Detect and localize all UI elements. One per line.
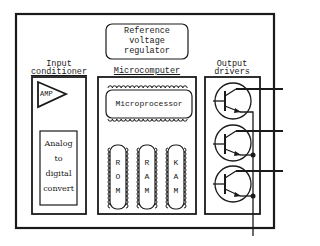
input-title-line2: conditioner bbox=[26, 68, 92, 76]
ram-letter: M bbox=[139, 184, 155, 198]
reference-line3: regulator bbox=[106, 46, 188, 56]
transistor-icons bbox=[213, 83, 283, 236]
ram-label: R A M bbox=[139, 156, 155, 198]
kam-letter: A bbox=[168, 170, 184, 184]
microcomputer-title: Microcomputer bbox=[98, 66, 196, 76]
rom-letter: O bbox=[110, 170, 126, 184]
rom-letter: M bbox=[110, 184, 126, 198]
kam-letter: M bbox=[168, 184, 184, 198]
reference-line2: voltage bbox=[106, 36, 188, 46]
adc-line4: convert bbox=[40, 181, 77, 196]
output-title-line2: drivers bbox=[203, 68, 261, 76]
input-conditioner-title: Input conditioner bbox=[26, 60, 92, 76]
reference-line1: Reference bbox=[106, 26, 188, 36]
ram-letter: R bbox=[139, 156, 155, 170]
reference-regulator-label: Reference voltage regulator bbox=[106, 26, 188, 56]
junction-dot bbox=[251, 194, 256, 199]
amp-label: AMP bbox=[38, 89, 62, 99]
kam-letter: K bbox=[168, 156, 184, 170]
ram-letter: A bbox=[139, 170, 155, 184]
output-drivers-box bbox=[205, 77, 260, 214]
adc-line2: to bbox=[40, 151, 77, 166]
kam-label: K A M bbox=[168, 156, 184, 198]
emitter-arrows bbox=[234, 108, 241, 197]
adc-line3: digital bbox=[40, 166, 77, 181]
microprocessor-label: Microprocessor bbox=[106, 99, 192, 109]
rom-letter: R bbox=[110, 156, 126, 170]
adc-line1: Analog bbox=[40, 136, 77, 151]
junction-dot bbox=[251, 153, 256, 158]
adc-label: Analog to digital convert bbox=[40, 136, 77, 196]
rom-label: R O M bbox=[110, 156, 126, 198]
output-drivers-title: Output drivers bbox=[203, 60, 261, 76]
